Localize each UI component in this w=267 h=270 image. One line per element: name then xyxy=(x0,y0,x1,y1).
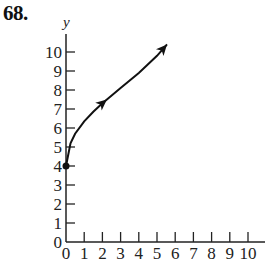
x-tick-label: 6 xyxy=(171,244,180,263)
y-tick-label: 3 xyxy=(54,176,63,195)
y-tick-label: 10 xyxy=(45,43,62,62)
x-tick-label: 0 xyxy=(62,244,71,263)
y-tick-label: 0 xyxy=(54,233,63,252)
x-tick-label: 3 xyxy=(116,244,125,263)
y-tick-label: 6 xyxy=(54,119,63,138)
x-tick-label: 5 xyxy=(153,244,162,263)
x-tick-label: 10 xyxy=(240,244,257,263)
start-point-dot xyxy=(63,163,70,170)
y-axis-label: y xyxy=(61,14,70,30)
graph: y012345678910012345678910 xyxy=(0,0,267,270)
x-tick-label: 1 xyxy=(80,244,89,263)
x-tick-label: 4 xyxy=(135,244,144,263)
y-tick-label: 4 xyxy=(54,157,63,176)
y-tick-label: 9 xyxy=(54,62,63,81)
y-tick-label: 8 xyxy=(54,81,63,100)
curve xyxy=(66,44,167,166)
x-tick-label: 7 xyxy=(189,244,198,263)
y-tick-label: 1 xyxy=(54,214,63,233)
y-tick-label: 2 xyxy=(54,195,63,214)
y-tick-label: 7 xyxy=(54,100,63,119)
y-tick-label: 5 xyxy=(54,138,63,157)
x-tick-label: 9 xyxy=(226,244,235,263)
x-tick-label: 2 xyxy=(98,244,107,263)
x-tick-label: 8 xyxy=(207,244,216,263)
